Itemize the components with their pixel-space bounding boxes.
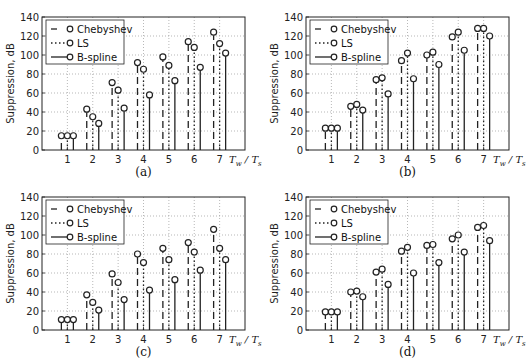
svg-text:3: 3 (379, 154, 385, 165)
data-point-marker (348, 103, 354, 109)
svg-text:1: 1 (328, 334, 334, 345)
data-point-marker (360, 294, 366, 300)
data-point-marker (197, 267, 203, 273)
svg-text:140: 140 (20, 12, 39, 23)
y-axis-label: Suppression, dB (269, 43, 280, 124)
data-point-marker (322, 125, 328, 131)
svg-text:5: 5 (166, 154, 172, 165)
svg-text:7: 7 (216, 334, 222, 345)
data-point-marker (109, 80, 115, 86)
data-point-marker (58, 133, 64, 139)
svg-text:6: 6 (191, 154, 197, 165)
y-axis: 020406080100120140 (284, 12, 309, 156)
legend: ChebyshevLSB-spline (46, 200, 132, 244)
svg-text:7: 7 (216, 154, 222, 165)
data-point-marker (322, 309, 328, 315)
data-point-marker (211, 226, 217, 232)
data-point-marker (487, 238, 493, 244)
data-point-marker (172, 78, 178, 84)
data-point-marker (147, 92, 153, 98)
legend-marker-icon (67, 206, 73, 212)
legend-label: B-spline (77, 232, 117, 243)
y-axis: 020406080100120140 (284, 192, 309, 336)
data-point-marker (455, 29, 461, 35)
data-point-marker (475, 224, 481, 230)
data-point-marker (141, 260, 147, 266)
svg-text:4: 4 (404, 334, 410, 345)
svg-text:1: 1 (328, 154, 334, 165)
data-point-marker (191, 44, 197, 50)
data-point-marker (135, 251, 141, 257)
svg-text:7: 7 (480, 154, 486, 165)
panel-caption: (d) (399, 345, 416, 359)
data-point-marker (379, 75, 385, 81)
data-point-marker (399, 58, 405, 64)
svg-text:120: 120 (20, 211, 39, 222)
data-point-marker (461, 47, 467, 53)
data-point-marker (449, 34, 455, 40)
legend-marker-icon (67, 234, 73, 240)
data-point-marker (70, 317, 76, 323)
data-point-marker (115, 87, 121, 93)
data-point-marker (217, 41, 223, 47)
data-point-marker (58, 317, 64, 323)
panel-caption: (a) (135, 165, 152, 179)
data-point-marker (411, 76, 417, 82)
svg-text:0: 0 (297, 145, 303, 156)
panel-b: 0204060801001201401234567ChebyshevLSB-sp… (264, 0, 528, 180)
data-point-marker (115, 280, 121, 286)
svg-text:0: 0 (33, 325, 39, 336)
svg-text:100: 100 (284, 50, 303, 61)
series-b-spline (70, 257, 228, 330)
legend-label: Chebyshev (341, 204, 396, 215)
svg-text:0: 0 (33, 145, 39, 156)
data-point-marker (399, 248, 405, 254)
data-point-marker (64, 317, 70, 323)
svg-text:4: 4 (140, 154, 146, 165)
data-point-marker (424, 242, 430, 248)
svg-text:80: 80 (290, 249, 303, 260)
svg-text:80: 80 (290, 69, 303, 80)
data-point-marker (64, 133, 70, 139)
svg-text:80: 80 (26, 69, 39, 80)
data-point-marker (141, 66, 147, 72)
y-axis: 020406080100120140 (20, 12, 45, 156)
data-point-marker (475, 25, 481, 31)
data-point-marker (223, 257, 229, 263)
svg-text:60: 60 (26, 268, 39, 279)
svg-text:2: 2 (90, 334, 96, 345)
data-point-marker (160, 54, 166, 60)
legend-label: B-spline (341, 52, 381, 63)
svg-text:20: 20 (26, 306, 39, 317)
data-point-marker (461, 249, 467, 255)
legend-marker-icon (331, 40, 337, 46)
legend-label: B-spline (77, 52, 117, 63)
legend-label: LS (341, 38, 353, 49)
legend-label: B-spline (341, 232, 381, 243)
legend-label: LS (77, 38, 89, 49)
data-point-marker (373, 269, 379, 275)
svg-text:2: 2 (354, 334, 360, 345)
svg-text:100: 100 (284, 230, 303, 241)
data-point-marker (121, 105, 127, 111)
svg-text:3: 3 (379, 334, 385, 345)
legend-marker-icon (331, 54, 337, 60)
data-point-marker (90, 299, 96, 305)
panel-d: 0204060801001201401234567ChebyshevLSB-sp… (264, 180, 528, 360)
data-point-marker (424, 52, 430, 58)
panel-c: 0204060801001201401234567ChebyshevLSB-sp… (0, 180, 264, 360)
data-point-marker (166, 62, 172, 68)
svg-text:40: 40 (26, 287, 39, 298)
svg-text:0: 0 (297, 325, 303, 336)
data-point-marker (334, 309, 340, 315)
data-point-marker (354, 101, 360, 107)
data-point-marker (191, 249, 197, 255)
svg-text:5: 5 (430, 154, 436, 165)
data-point-marker (487, 33, 493, 39)
svg-text:60: 60 (290, 88, 303, 99)
data-point-marker (455, 232, 461, 238)
data-point-marker (121, 297, 127, 303)
svg-text:140: 140 (284, 192, 303, 203)
legend-marker-icon (331, 206, 337, 212)
svg-text:60: 60 (26, 88, 39, 99)
